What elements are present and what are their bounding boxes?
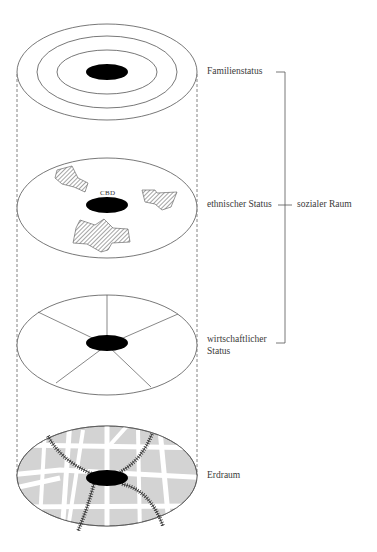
label-familienstatus: Familienstatus (207, 66, 262, 77)
label-ethnischer-status: ethnischer Status (207, 199, 272, 210)
label-erdraum: Erdraum (207, 470, 240, 481)
label-wirtschaftlicher-line1: wirtschaftlicher (207, 334, 267, 345)
layer-ethnischer-status (17, 158, 197, 258)
layer-erdraum (10, 420, 210, 535)
cbd-core (86, 335, 128, 351)
layer-familienstatus (17, 24, 197, 120)
layered-city-diagram (0, 0, 377, 552)
sozialer-raum-bracket (276, 72, 292, 343)
label-wirtschaftlicher-line2: Status (207, 346, 230, 357)
cbd-core (86, 197, 128, 213)
cbd-label: CBD (100, 189, 115, 197)
cbd-core (86, 64, 128, 80)
layer-wirtschaftlicher-status (17, 295, 197, 395)
cbd-core (86, 470, 128, 486)
label-sozialer-raum: sozialer Raum (297, 199, 352, 210)
